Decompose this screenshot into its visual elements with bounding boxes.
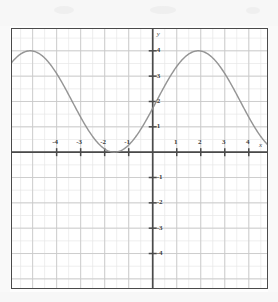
scan-smudge (54, 6, 74, 14)
y-tick-label: 1 (157, 123, 161, 130)
x-tick-label: -2 (100, 139, 106, 146)
scan-noise-top (0, 0, 278, 26)
y-tick-label: 4 (157, 47, 161, 54)
y-tick-label: -2 (157, 199, 163, 206)
x-tick-label: 3 (222, 139, 226, 146)
scan-smudge (246, 7, 260, 14)
y-tick-label: 2 (157, 98, 161, 105)
y-tick-label: -4 (157, 250, 163, 257)
x-tick-label: -3 (76, 139, 82, 146)
y-axis-label: y (157, 31, 160, 38)
scan-noise-left (0, 26, 10, 292)
x-axis-label: x (259, 142, 262, 149)
y-tick-label: -1 (157, 174, 163, 181)
x-tick-label: 1 (174, 139, 178, 146)
plot-frame (11, 28, 268, 289)
scan-noise-bottom (0, 292, 278, 302)
scan-smudge (150, 6, 176, 14)
x-tick-label: 2 (198, 139, 202, 146)
y-tick-label: -3 (157, 225, 163, 232)
x-tick-label: 4 (246, 139, 250, 146)
coordinate-plane: -4-3-2-112344321-1-2-3-4 y x (11, 28, 268, 289)
x-tick-label: -1 (124, 139, 130, 146)
y-tick-label: 3 (157, 73, 161, 80)
x-tick-label: -4 (52, 139, 58, 146)
scan-noise-right (268, 26, 278, 292)
graph-screenshot: -4-3-2-112344321-1-2-3-4 y x (0, 0, 278, 302)
